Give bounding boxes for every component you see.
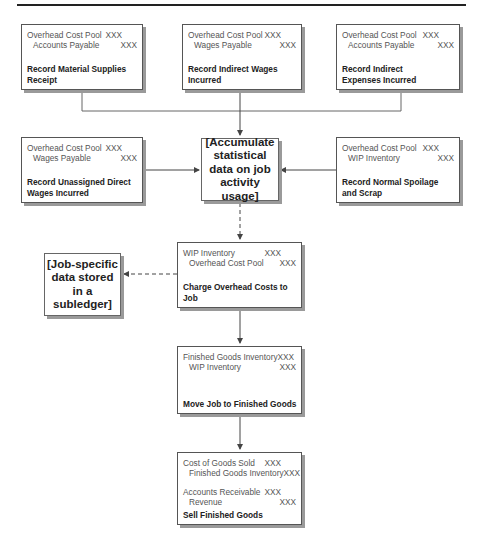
journal-entry-credit: Overhead Cost PoolXXX [183, 258, 296, 268]
box-material-supplies: Overhead Cost PoolXXX Accounts PayableXX… [21, 24, 143, 90]
journal-entry-debit: Overhead Cost PoolXXX [27, 143, 137, 153]
box-indirect-wages: Overhead Cost PoolXXX Wages PayableXXX R… [182, 24, 302, 90]
box-caption: Sell Finished Goods [183, 510, 297, 521]
box-indirect-expenses: Overhead Cost PoolXXX Accounts PayableXX… [336, 24, 460, 90]
journal-entry-debit: Overhead Cost PoolXXX [188, 30, 296, 40]
journal-entry-credit: Wages PayableXXX [188, 40, 296, 50]
box-caption: Record Material Supplies Receipt [27, 64, 138, 85]
box-caption: Record Normal Spoilage and Scrap [342, 177, 439, 198]
journal-entry-credit: WIP InventoryXXX [342, 153, 454, 163]
note-job-specific-subledger: [Job-specific data stored in a subledger… [44, 253, 121, 316]
journal-entry-credit: WIP InventoryXXX [183, 362, 296, 372]
box-caption: Move Job to Finished Goods [183, 399, 297, 410]
journal-entry-debit: Accounts ReceivableXXX [183, 487, 296, 497]
box-caption: Record Indirect Expenses Incurred [342, 64, 419, 85]
journal-entry-credit: Accounts PayableXXX [342, 40, 454, 50]
journal-entry-debit: Overhead Cost PoolXXX [27, 30, 137, 40]
box-move-job: Finished Goods InventoryXXX WIP Inventor… [177, 346, 302, 414]
box-unassigned-direct-wages: Overhead Cost PoolXXX Wages PayableXXX R… [21, 137, 143, 203]
journal-entry-debit: Overhead Cost PoolXXX [342, 143, 454, 153]
journal-entry-credit: RevenueXXX [183, 497, 296, 507]
journal-entry-credit: Accounts PayableXXX [27, 40, 137, 50]
box-charge-overhead: WIP InventoryXXX Overhead Cost PoolXXX C… [177, 242, 302, 308]
journal-entry-credit: Finished Goods InventoryXXX [183, 468, 296, 478]
journal-entry-debit: WIP InventoryXXX [183, 248, 296, 258]
journal-entry-debit: Finished Goods InventoryXXX [183, 352, 296, 362]
box-normal-spoilage: Overhead Cost PoolXXX WIP InventoryXXX R… [336, 137, 460, 203]
note-accumulate-statistical-data: [Accumulate statistical data on job acti… [201, 138, 279, 201]
box-caption: Record Unassigned Direct Wages Incurred [27, 177, 138, 198]
box-caption: Charge Overhead Costs to Job [183, 282, 297, 303]
box-caption: Record Indirect Wages Incurred [188, 64, 297, 85]
journal-entry-credit: Wages PayableXXX [27, 153, 137, 163]
note-text: [Accumulate statistical data on job acti… [202, 136, 278, 204]
journal-entry-debit: Cost of Goods SoldXXX [183, 458, 296, 468]
note-text: [Job-specific data stored in a subledger… [45, 258, 120, 312]
journal-entry-debit: Overhead Cost PoolXXX [342, 30, 454, 40]
box-sell-goods: Cost of Goods SoldXXX Finished Goods Inv… [177, 452, 302, 525]
